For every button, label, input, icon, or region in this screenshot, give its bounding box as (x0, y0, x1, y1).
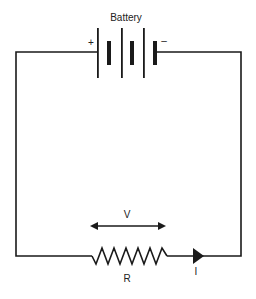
arrowhead-left-icon (90, 222, 98, 230)
voltage-label: V (124, 209, 131, 220)
battery-plate-short-3 (153, 41, 157, 65)
wire-left-top (16, 52, 98, 256)
circuit-diagram: Battery + – V R I (0, 0, 256, 299)
resistor (92, 248, 167, 264)
battery-plate-long-3 (143, 28, 145, 78)
battery-plate-short-1 (107, 41, 111, 65)
negative-terminal-label: – (161, 35, 167, 46)
battery-plate-long-1 (97, 28, 99, 78)
resistor-label: R (123, 273, 130, 284)
voltage-arrow (90, 222, 166, 230)
battery (97, 28, 157, 78)
battery-plate-long-2 (121, 28, 123, 78)
arrowhead-right-icon (158, 222, 166, 230)
current-direction-arrow-icon (193, 248, 204, 264)
battery-plate-short-2 (130, 41, 134, 65)
positive-terminal-label: + (88, 37, 94, 48)
current-label: I (195, 266, 198, 277)
wire-right (157, 52, 241, 256)
battery-label: Battery (110, 12, 142, 23)
